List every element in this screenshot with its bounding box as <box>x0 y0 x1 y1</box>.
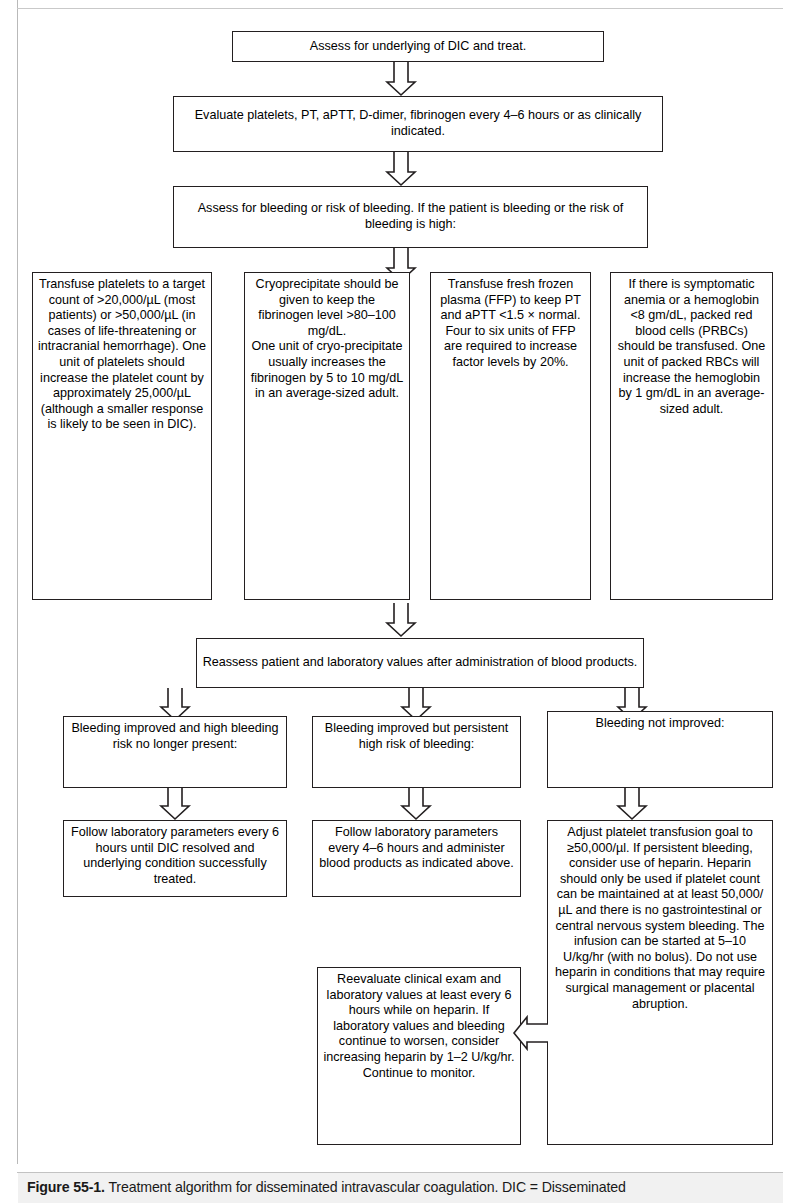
arrow-down-6c <box>616 788 648 820</box>
node-follow-6h: Follow laboratory parameters every 6 hou… <box>63 820 287 897</box>
node-follow-4-6h: Follow laboratory parameters every 4–6 h… <box>312 820 521 897</box>
arrow-down-6a <box>159 788 191 820</box>
node-transfuse-platelets-text: Transfuse platelets to a target count of… <box>38 277 206 433</box>
node-follow-6h-text: Follow laboratory parameters every 6 hou… <box>69 825 281 887</box>
node-reevaluate-text: Reevaluate clinical exam and laboratory … <box>323 972 515 1081</box>
arrow-down-1 <box>385 62 417 96</box>
node-cryoprecipitate-text: Cryoprecipitate should be given to keep … <box>250 277 404 402</box>
node-outcome-not-improved-text: Bleeding not improved: <box>553 716 767 732</box>
node-transfuse-platelets: Transfuse platelets to a target count of… <box>32 272 212 600</box>
node-ffp-text: Transfuse fresh frozen plasma (FFP) to k… <box>436 277 585 371</box>
node-outcome-persistent-text: Bleeding improved but persistent high ri… <box>318 721 515 752</box>
figure-caption: Figure 55-1. Treatment algorithm for dis… <box>27 1178 782 1197</box>
node-reassess-text: Reassess patient and laboratory values a… <box>202 655 638 671</box>
node-heparin-text: Adjust platelet transfusion goal to ≥50,… <box>553 825 767 1012</box>
node-outcome-not-improved: Bleeding not improved: <box>547 711 773 788</box>
arrow-left-heparin-to-reevaluate <box>513 1016 549 1050</box>
node-evaluate-labs-text: Evaluate platelets, PT, aPTT, D-dimer, f… <box>179 108 657 139</box>
node-outcome-persistent: Bleeding improved but persistent high ri… <box>312 716 521 788</box>
node-cryoprecipitate: Cryoprecipitate should be given to keep … <box>244 272 410 600</box>
node-assess-bleeding: Assess for bleeding or risk of bleeding.… <box>173 186 648 248</box>
figure-page: Assess for underlying of DIC and treat. … <box>0 0 801 1203</box>
page-top-rule <box>17 8 783 9</box>
node-assess-bleeding-text: Assess for bleeding or risk of bleeding.… <box>179 201 642 232</box>
node-assess-underlying-text: Assess for underlying of DIC and treat. <box>238 39 598 55</box>
figure-caption-label: Figure 55-1. <box>27 1179 105 1195</box>
arrow-down-2 <box>385 152 417 186</box>
node-evaluate-labs: Evaluate platelets, PT, aPTT, D-dimer, f… <box>173 96 663 152</box>
node-prbc: If there is symptomatic anemia or a hemo… <box>610 272 773 600</box>
node-prbc-text: If there is symptomatic anemia or a hemo… <box>616 277 767 417</box>
arrow-down-6b <box>400 788 432 820</box>
page-left-rule <box>17 0 18 1164</box>
node-follow-4-6h-text: Follow laboratory parameters every 4–6 h… <box>318 825 515 872</box>
node-outcome-improved-text: Bleeding improved and high bleeding risk… <box>69 721 281 752</box>
node-outcome-improved: Bleeding improved and high bleeding risk… <box>63 716 287 788</box>
node-assess-underlying: Assess for underlying of DIC and treat. <box>232 31 604 62</box>
node-reassess: Reassess patient and laboratory values a… <box>196 638 644 688</box>
figure-caption-text: Treatment algorithm for disseminated int… <box>105 1179 626 1195</box>
node-heparin: Adjust platelet transfusion goal to ≥50,… <box>547 820 773 1145</box>
arrow-down-4 <box>385 603 417 637</box>
node-ffp: Transfuse fresh frozen plasma (FFP) to k… <box>430 272 591 600</box>
node-reevaluate: Reevaluate clinical exam and laboratory … <box>317 967 521 1145</box>
